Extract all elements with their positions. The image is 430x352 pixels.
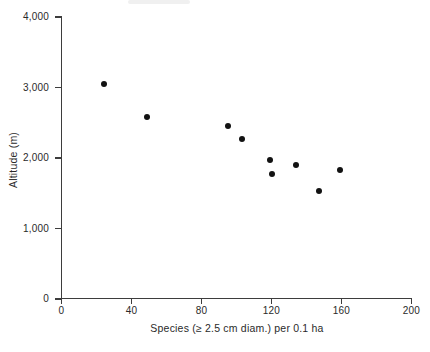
y-tick-label: 4,000 [23,12,49,22]
scatter-point [239,136,245,142]
y-axis-title: Altitude (m) [7,132,19,188]
y-tick-mark [55,87,62,88]
scatter-point [316,188,322,194]
x-axis-line [55,298,412,299]
x-tick-mark [201,298,202,304]
scatter-point [101,81,107,87]
y-axis-line [61,16,62,303]
scatter-point [267,157,273,163]
scatter-point [293,162,299,168]
y-tick-label: 2,000 [23,153,49,163]
x-tick-mark [271,298,272,304]
x-tick-mark [131,298,132,304]
scatter-plot-figure: Altitude (m) Species (≥ 2.5 cm diam.) pe… [0,0,430,352]
scan-artifact [128,0,190,4]
x-tick-label: 0 [59,306,65,316]
y-tick-label: 0 [43,294,49,304]
x-tick-label: 80 [196,306,208,316]
y-tick-mark [55,228,62,229]
scatter-point [269,171,275,177]
y-tick-mark [55,16,62,17]
x-tick-label: 160 [333,306,350,316]
scatter-point [144,114,150,120]
y-tick-label: 1,000 [23,224,49,234]
x-axis-title: Species (≥ 2.5 cm diam.) per 0.1 ha [62,322,412,334]
y-tick-label: 3,000 [23,83,49,93]
y-tick-mark [55,157,62,158]
x-tick-label: 120 [263,306,280,316]
scatter-point [225,123,231,129]
x-tick-label: 40 [126,306,138,316]
x-tick-mark [61,298,62,304]
scatter-point [337,167,343,173]
x-tick-mark [341,298,342,304]
x-tick-label: 200 [403,306,420,316]
x-tick-mark [411,298,412,304]
